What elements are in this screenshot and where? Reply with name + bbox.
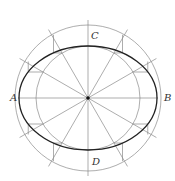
label-c: C: [91, 31, 99, 41]
label-d: D: [92, 157, 100, 167]
label-b: B: [164, 93, 171, 103]
ellipse-construction-diagram: [0, 0, 175, 181]
label-a: A: [10, 93, 17, 103]
center-point: [86, 96, 90, 100]
